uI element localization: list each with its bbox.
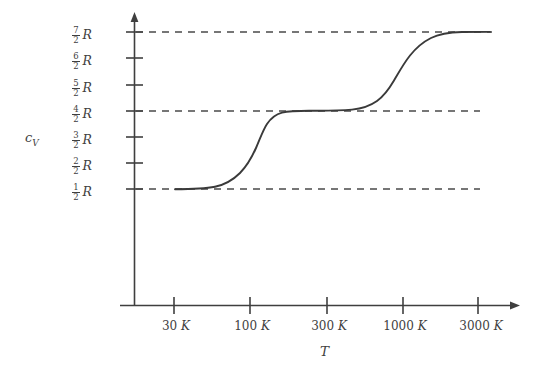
ytick-num-6: 6	[72, 52, 79, 62]
xtick-unit-300: K	[338, 319, 347, 333]
ytick-num-5: 5	[72, 79, 79, 89]
ytick-num-1: 1	[72, 183, 79, 193]
y-axis-arrow-icon	[131, 12, 139, 22]
ytick-unit-4: R	[83, 106, 92, 121]
ytick-unit-5: R	[83, 80, 92, 95]
x-axis-arrow-icon	[510, 302, 520, 310]
ytick-den-7: 2	[72, 36, 79, 45]
ytick-label-6-2-R: 62R	[48, 52, 92, 71]
ytick-den-3: 2	[72, 141, 79, 150]
xtick-unit-30: K	[181, 319, 190, 333]
ytick-unit-7: R	[83, 27, 92, 42]
figure-container: 72R 62R 52R 42R 32R 22R 12R 30 K 100 K 3…	[0, 0, 533, 373]
xtick-number-1000: 1000	[383, 319, 414, 333]
ytick-label-5-2-R: 52R	[48, 79, 92, 98]
xtick-unit-100: K	[261, 319, 270, 333]
xtick-number-3000: 3000	[459, 319, 490, 333]
xtick-unit-3000: K	[494, 319, 503, 333]
xtick-label-1000K: 1000 K	[383, 320, 426, 332]
ytick-den-6: 2	[72, 62, 79, 71]
xtick-label-100K: 100 K	[234, 320, 270, 332]
ytick-unit-1: R	[83, 184, 92, 199]
y-axis-title: cV	[25, 131, 39, 148]
ytick-den-1: 2	[72, 193, 79, 202]
ytick-label-7-2-R: 72R	[48, 26, 92, 45]
ytick-label-3-2-R: 32R	[48, 131, 92, 150]
ytick-num-7: 7	[72, 26, 79, 36]
ytick-label-2-2-R: 22R	[48, 157, 92, 176]
x-axis-title: T	[320, 345, 329, 359]
ytick-unit-6: R	[83, 53, 92, 68]
xtick-number-30: 30	[162, 319, 177, 333]
ytick-den-5: 2	[72, 89, 79, 98]
ytick-unit-3: R	[83, 132, 92, 147]
xtick-number-100: 100	[234, 319, 257, 333]
ytick-num-4: 4	[72, 105, 79, 115]
y-axis-title-subscript: V	[32, 138, 39, 148]
xtick-unit-1000: K	[418, 319, 427, 333]
ytick-num-2: 2	[72, 157, 79, 167]
ytick-label-4-2-R: 42R	[48, 105, 92, 124]
ytick-unit-2: R	[83, 158, 92, 173]
ytick-den-2: 2	[72, 167, 79, 176]
xtick-label-30K: 30 K	[162, 320, 190, 332]
ytick-den-4: 2	[72, 115, 79, 124]
ytick-label-1-2-R: 12R	[48, 183, 92, 202]
xtick-number-300: 300	[311, 319, 334, 333]
xtick-label-300K: 300 K	[311, 320, 347, 332]
ytick-num-3: 3	[72, 131, 79, 141]
heat-capacity-curve	[175, 32, 490, 189]
xtick-label-3000K: 3000 K	[459, 320, 502, 332]
